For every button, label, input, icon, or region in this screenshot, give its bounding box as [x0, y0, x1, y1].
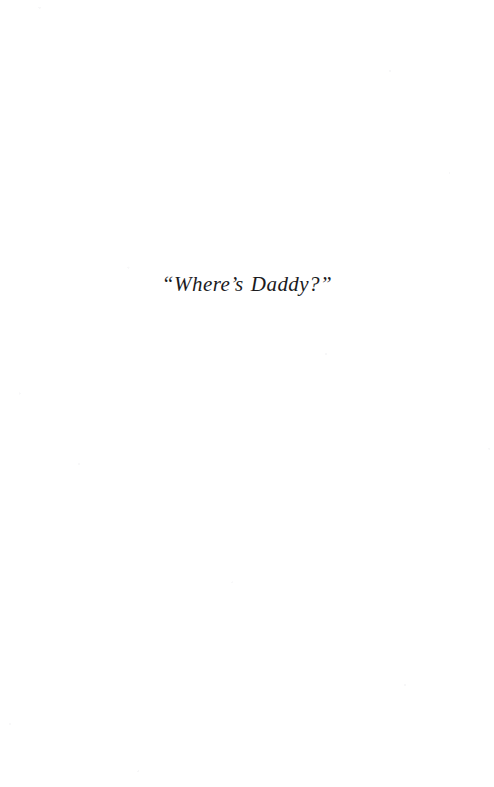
- book-page: “Where’s Daddy?”: [0, 0, 494, 787]
- epigraph-text: “Where’s Daddy?”: [162, 269, 332, 299]
- epigraph-block: “Where’s Daddy?”: [0, 269, 494, 299]
- scan-grain-texture: [0, 0, 494, 787]
